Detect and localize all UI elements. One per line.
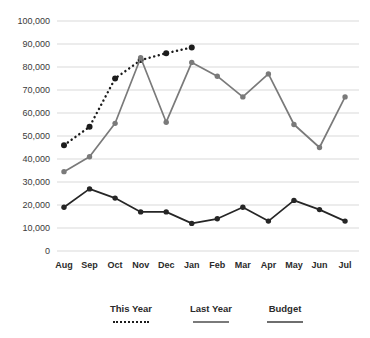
legend-swatch-this-year: [113, 321, 149, 323]
y-axis-tick-label: 10,000: [22, 223, 50, 233]
data-point-marker: [138, 55, 143, 60]
data-point-marker: [215, 216, 220, 221]
data-point-marker: [266, 218, 271, 223]
legend-label-budget: Budget: [262, 303, 308, 314]
y-axis-tick-label: 90,000: [22, 39, 50, 49]
y-axis-tick-label: 20,000: [22, 200, 50, 210]
data-point-marker: [291, 198, 296, 203]
data-point-marker: [61, 205, 66, 210]
data-point-marker: [215, 74, 220, 79]
data-point-marker: [112, 76, 118, 82]
x-axis-tick-label: Aug: [55, 260, 73, 270]
data-point-marker: [163, 50, 169, 56]
legend-swatch-last-year: [193, 321, 229, 323]
line-chart: 100,00090,00080,00070,00060,00050,00040,…: [0, 0, 370, 338]
y-axis-tick-label: 0: [45, 246, 50, 256]
x-axis-tick-label: Dec: [158, 260, 175, 270]
x-axis-tick-label: Jan: [184, 260, 200, 270]
y-axis-tick-label: 50,000: [22, 131, 50, 141]
data-point-marker: [61, 142, 67, 148]
data-point-marker: [87, 154, 92, 159]
data-point-marker: [112, 121, 117, 126]
x-axis-tick-label: Oct: [108, 260, 123, 270]
legend-label-last-year: Last Year: [183, 303, 239, 314]
y-axis-tick-label: 100,000: [17, 16, 50, 26]
data-point-marker: [342, 218, 347, 223]
legend-label-this-year: This Year: [103, 303, 159, 314]
data-point-marker: [189, 60, 194, 65]
legend-swatch-budget: [267, 321, 303, 323]
data-point-marker: [164, 209, 169, 214]
x-axis-tick-label: Mar: [235, 260, 252, 270]
y-axis-tick-label: 60,000: [22, 108, 50, 118]
data-point-marker: [61, 169, 66, 174]
data-point-marker: [112, 195, 117, 200]
x-axis-tick-label: Jun: [311, 260, 327, 270]
data-point-marker: [342, 94, 347, 99]
data-point-marker: [317, 207, 322, 212]
data-point-marker: [138, 209, 143, 214]
x-axis-tick-label: Apr: [261, 260, 277, 270]
x-axis-tick-label: Sep: [81, 260, 98, 270]
data-point-marker: [87, 124, 93, 130]
data-point-marker: [87, 186, 92, 191]
y-axis-tick-label: 40,000: [22, 154, 50, 164]
x-axis-tick-label: Nov: [132, 260, 149, 270]
series-line-last-year: [64, 58, 345, 172]
data-point-marker: [240, 205, 245, 210]
y-axis-tick-label: 30,000: [22, 177, 50, 187]
data-point-marker: [164, 120, 169, 125]
data-point-marker: [189, 221, 194, 226]
data-point-marker: [266, 71, 271, 76]
series-line-this-year: [64, 47, 192, 145]
data-point-marker: [240, 94, 245, 99]
x-axis-tick-label: May: [285, 260, 303, 270]
x-axis-tick-label: Feb: [209, 260, 226, 270]
data-point-marker: [317, 145, 322, 150]
y-axis-tick-label: 70,000: [22, 85, 50, 95]
series-line-budget: [64, 189, 345, 224]
x-axis-tick-label: Jul: [339, 260, 352, 270]
y-axis-tick-label: 80,000: [22, 62, 50, 72]
data-point-marker: [291, 122, 296, 127]
data-point-marker: [189, 44, 195, 50]
chart-plot-area: 100,00090,00080,00070,00060,00050,00040,…: [0, 0, 370, 338]
